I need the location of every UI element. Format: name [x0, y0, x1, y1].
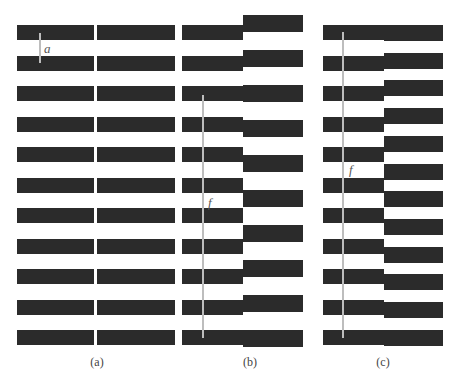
grating-bar	[97, 178, 175, 193]
grating-bar	[323, 25, 384, 40]
grating-bar	[384, 191, 443, 207]
grating-bar	[182, 117, 243, 132]
grating-bar	[384, 136, 443, 152]
grating-bar	[17, 117, 94, 132]
grating-bar	[323, 269, 384, 284]
grating-bar	[97, 208, 175, 223]
grating-bar	[17, 269, 94, 284]
dimension-label-f-c: f	[349, 163, 353, 176]
grating-bar	[243, 225, 303, 242]
grating-bar	[17, 300, 94, 315]
grating-bar	[384, 80, 443, 96]
dimension-label-f-b: f	[208, 196, 212, 209]
grating-bar	[17, 86, 94, 101]
grating-bar	[323, 300, 384, 315]
grating-bar	[323, 208, 384, 223]
grating-bar	[243, 330, 303, 347]
grating-bar	[97, 56, 175, 71]
grating-bar	[182, 147, 243, 162]
grating-bar	[182, 86, 243, 101]
grating-bar	[97, 117, 175, 132]
grating-bar	[17, 56, 94, 71]
grating-bar	[182, 178, 243, 193]
grating-bar	[384, 25, 443, 41]
diagram-canvas: a (a) f (b) f (c)	[0, 0, 458, 383]
grating-bar	[243, 260, 303, 277]
grating-bar	[384, 164, 443, 180]
grating-bar	[243, 85, 303, 102]
grating-bar	[182, 208, 243, 223]
caption-c: (c)	[376, 356, 389, 368]
grating-bar	[17, 178, 94, 193]
grating-bar	[243, 155, 303, 172]
grating-bar	[97, 239, 175, 254]
grating-bar	[243, 15, 303, 32]
grating-bar	[323, 117, 384, 132]
grating-bar	[97, 147, 175, 162]
grating-bar	[97, 269, 175, 284]
grating-bar	[243, 295, 303, 312]
grating-bar	[384, 274, 443, 290]
grating-bar	[182, 300, 243, 315]
dimension-line	[342, 32, 344, 338]
grating-bar	[323, 56, 384, 71]
grating-bar	[323, 147, 384, 162]
grating-bar	[97, 300, 175, 315]
grating-bar	[97, 86, 175, 101]
grating-bar	[243, 50, 303, 67]
grating-bar	[17, 239, 94, 254]
caption-b: (b)	[243, 356, 257, 368]
grating-bar	[384, 330, 443, 346]
dimension-label-a: a	[44, 42, 51, 55]
grating-bar	[17, 25, 94, 40]
grating-bar	[243, 120, 303, 137]
grating-bar	[182, 56, 243, 71]
grating-bar	[182, 330, 243, 345]
grating-bar	[384, 219, 443, 235]
grating-bar	[323, 86, 384, 101]
grating-bar	[97, 25, 175, 40]
grating-bar	[17, 147, 94, 162]
caption-a: (a)	[90, 356, 103, 368]
grating-bar	[243, 190, 303, 207]
grating-bar	[182, 25, 243, 40]
grating-bar	[323, 178, 384, 193]
grating-bar	[97, 330, 175, 345]
grating-bar	[182, 239, 243, 254]
grating-bar	[384, 108, 443, 124]
grating-bar	[323, 330, 384, 345]
grating-bar	[384, 247, 443, 263]
grating-bar	[17, 208, 94, 223]
dimension-line	[39, 33, 41, 63]
grating-bar	[384, 53, 443, 69]
grating-bar	[384, 302, 443, 318]
grating-bar	[17, 330, 94, 345]
grating-bar	[182, 269, 243, 284]
grating-bar	[323, 239, 384, 254]
dimension-line	[202, 95, 204, 338]
